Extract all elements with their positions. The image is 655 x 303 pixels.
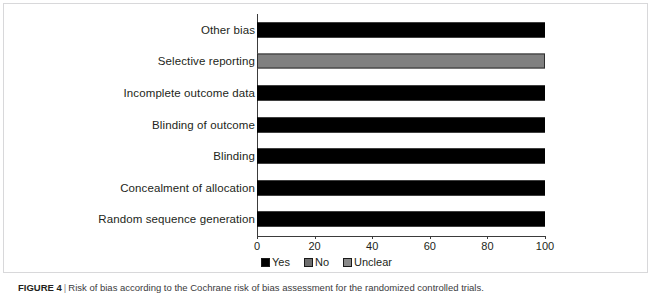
bar-segment-yes (257, 85, 545, 100)
bar-segment-yes (257, 180, 545, 195)
x-axis-tick-label: 0 (254, 240, 260, 252)
category-label: Blinding of outcome (152, 119, 255, 131)
category-label: Random sequence generation (98, 213, 255, 225)
category-label: Concealment of allocation (120, 182, 255, 194)
x-axis-tick-mark (257, 236, 258, 239)
figure-caption: FIGURE 4|Risk of bias according to the C… (18, 282, 638, 294)
bar-track (257, 117, 545, 132)
x-axis-tick-label: 100 (536, 240, 554, 252)
category-label: Selective reporting (158, 55, 255, 67)
x-axis-line (257, 236, 546, 237)
figure-panel: Other biasSelective reportingIncomplete … (3, 3, 648, 273)
legend-swatch-icon (343, 258, 352, 267)
chart-legend: YesNoUnclear (4, 256, 649, 268)
bar-row: Random sequence generation (4, 204, 649, 236)
bar-track (257, 180, 545, 195)
category-label: Incomplete outcome data (124, 87, 255, 99)
legend-swatch-icon (304, 258, 313, 267)
bar-chart-plot-area: Other biasSelective reportingIncomplete … (4, 4, 649, 244)
bar-row: Other bias (4, 14, 649, 46)
bar-segment-yes (257, 22, 545, 37)
bar-track (257, 149, 545, 164)
bar-row: Blinding (4, 140, 649, 172)
x-axis-tick-mark (430, 236, 431, 239)
x-axis-tick-mark (372, 236, 373, 239)
x-axis-tick-label: 20 (308, 240, 320, 252)
legend-item-no: No (304, 256, 329, 268)
bar-segment-yes (257, 117, 545, 132)
x-axis-tick-mark (487, 236, 488, 239)
legend-label: No (315, 256, 329, 268)
bar-segment-unclear (257, 54, 545, 69)
bar-segment-yes (257, 149, 545, 164)
category-label: Blinding (213, 150, 255, 162)
bar-row: Selective reporting (4, 46, 649, 78)
bar-track (257, 22, 545, 37)
legend-item-yes: Yes (261, 256, 290, 268)
x-axis-tick-mark (315, 236, 316, 239)
bar-row: Incomplete outcome data (4, 77, 649, 109)
bar-track (257, 54, 545, 69)
caption-text: Risk of bias according to the Cochrane r… (68, 282, 484, 293)
legend-swatch-icon (261, 258, 270, 267)
legend-label: Unclear (354, 256, 392, 268)
bar-track (257, 212, 545, 227)
bar-row: Blinding of outcome (4, 109, 649, 141)
figure-number: FIGURE 4 (18, 282, 62, 293)
bar-row: Concealment of allocation (4, 172, 649, 204)
x-axis-tick-label: 60 (424, 240, 436, 252)
legend-item-unclear: Unclear (343, 256, 392, 268)
x-axis-tick-mark (545, 236, 546, 239)
legend-label: Yes (272, 256, 290, 268)
x-axis-tick-label: 80 (481, 240, 493, 252)
bar-track (257, 85, 545, 100)
bar-segment-yes (257, 212, 545, 227)
category-label: Other bias (201, 24, 255, 36)
x-axis-tick-label: 40 (366, 240, 378, 252)
